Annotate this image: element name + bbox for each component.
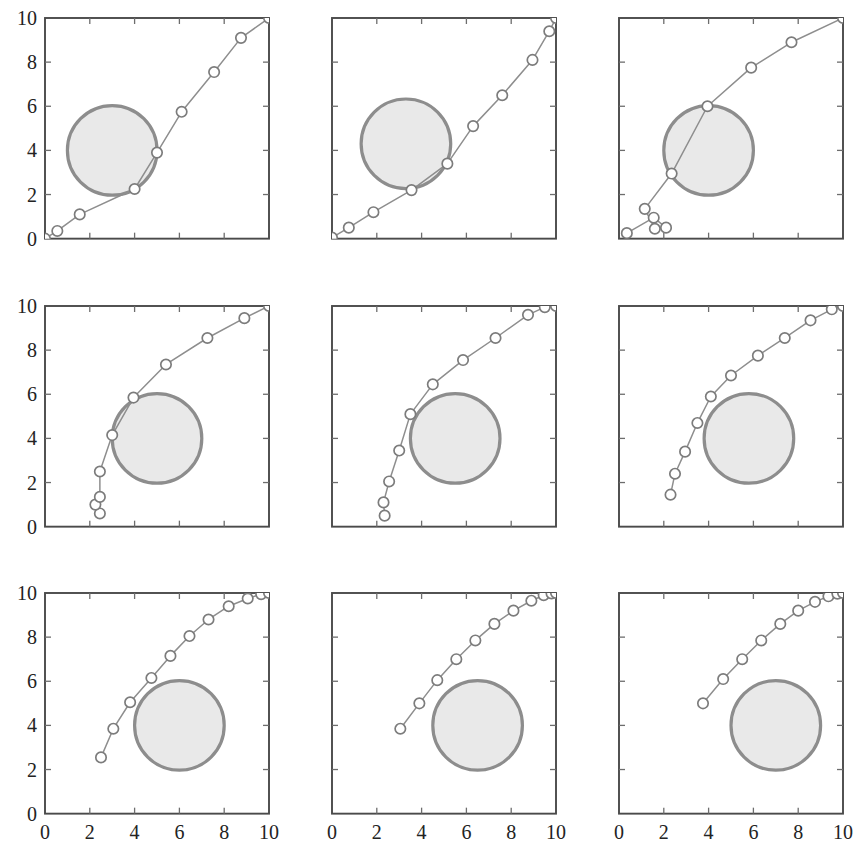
data-point-marker	[378, 497, 388, 507]
y-tick-label: 10	[17, 295, 37, 317]
plot-svg: 0246810	[574, 575, 861, 863]
data-point-marker	[146, 673, 156, 683]
data-point-marker	[428, 379, 438, 389]
data-point-marker	[40, 233, 50, 243]
y-tick-label: 10	[17, 7, 37, 29]
data-point-marker	[379, 510, 389, 520]
data-point-marker	[202, 332, 212, 342]
data-point-marker	[394, 445, 404, 455]
obstacle-circle	[67, 106, 157, 196]
data-point-marker	[368, 207, 378, 217]
data-point-marker	[468, 121, 478, 131]
plot-svg	[287, 288, 574, 576]
data-point-marker	[540, 302, 550, 312]
y-tick-label: 8	[27, 626, 37, 648]
data-point-marker	[551, 300, 561, 310]
data-point-marker	[451, 654, 461, 664]
plot-panel: 0246810	[0, 288, 287, 576]
data-point-marker	[344, 222, 354, 232]
x-tick-label: 0	[614, 821, 624, 843]
x-tick-label: 6	[461, 821, 471, 843]
panel-grid: 0246810 0246810 02468100246810 0246810 0…	[0, 0, 861, 863]
data-point-marker	[165, 651, 175, 661]
y-tick-label: 8	[27, 51, 37, 73]
data-point-marker	[786, 37, 796, 47]
obstacle-circle	[731, 681, 821, 771]
data-point-marker	[551, 13, 561, 23]
data-point-marker	[640, 204, 650, 214]
x-tick-label: 8	[219, 821, 229, 843]
y-tick-label: 4	[27, 715, 37, 737]
data-point-marker	[551, 588, 561, 598]
x-tick-label: 10	[546, 821, 566, 843]
plot-svg: 0246810	[287, 575, 574, 863]
data-point-marker	[527, 55, 537, 65]
data-point-marker	[264, 300, 274, 310]
data-point-marker	[756, 636, 766, 646]
data-point-marker	[264, 13, 274, 23]
x-tick-label: 10	[259, 821, 279, 843]
plot-panel: 02468100246810	[0, 575, 287, 863]
data-point-marker	[508, 606, 518, 616]
data-point-marker	[384, 476, 394, 486]
data-point-marker	[805, 315, 815, 325]
plot-content	[96, 588, 274, 770]
data-point-marker	[470, 636, 480, 646]
plot-panel: 0246810	[0, 0, 287, 288]
plot-svg	[574, 288, 861, 576]
y-tick-label: 0	[27, 803, 37, 825]
data-point-marker	[395, 724, 405, 734]
y-tick-label: 8	[27, 339, 37, 361]
y-tick-label: 2	[27, 759, 37, 781]
y-tick-label: 2	[27, 471, 37, 493]
plot-content	[395, 588, 561, 770]
plot-content	[698, 588, 848, 770]
plot-panel: 0246810	[287, 575, 574, 863]
plot-content	[622, 13, 849, 239]
y-tick-label: 4	[27, 139, 37, 161]
x-tick-label: 8	[793, 821, 803, 843]
data-point-marker	[661, 222, 671, 232]
data-point-marker	[239, 313, 249, 323]
data-point-marker	[793, 606, 803, 616]
plot-svg	[574, 0, 861, 288]
data-point-marker	[649, 212, 659, 222]
data-point-marker	[718, 674, 728, 684]
y-tick-label: 6	[27, 383, 37, 405]
data-point-marker	[753, 350, 763, 360]
plot-panel	[287, 288, 574, 576]
data-point-marker	[95, 466, 105, 476]
data-point-marker	[497, 90, 507, 100]
data-point-marker	[161, 359, 171, 369]
data-point-marker	[838, 13, 848, 23]
data-point-marker	[125, 697, 135, 707]
data-point-marker	[526, 596, 536, 606]
x-tick-label: 6	[174, 821, 184, 843]
data-point-marker	[698, 698, 708, 708]
obstacle-circle	[433, 681, 523, 771]
plot-svg: 0246810	[0, 288, 287, 576]
data-point-marker	[75, 209, 85, 219]
data-point-marker	[184, 631, 194, 641]
data-point-marker	[108, 724, 118, 734]
data-point-marker	[129, 184, 139, 194]
data-point-marker	[665, 489, 675, 499]
data-point-marker	[838, 588, 848, 598]
data-point-marker	[775, 619, 785, 629]
data-point-marker	[702, 101, 712, 111]
x-tick-label: 2	[372, 821, 382, 843]
data-point-marker	[458, 355, 468, 365]
obstacle-circle	[135, 681, 225, 771]
x-tick-label: 10	[833, 821, 853, 843]
data-point-marker	[236, 33, 246, 43]
data-point-marker	[523, 309, 533, 319]
data-point-marker	[692, 417, 702, 427]
plot-content	[665, 300, 848, 499]
data-point-marker	[96, 753, 106, 763]
data-point-marker	[489, 619, 499, 629]
data-point-marker	[405, 409, 415, 419]
data-point-marker	[176, 107, 186, 117]
data-point-marker	[152, 147, 162, 157]
y-tick-label: 2	[27, 184, 37, 206]
y-tick-label: 10	[17, 582, 37, 604]
